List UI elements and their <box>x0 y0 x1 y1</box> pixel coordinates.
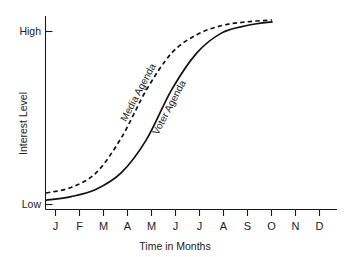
y-tick-label-high: High <box>19 25 41 37</box>
x-tick-label-feb: F <box>76 220 83 232</box>
x-axis-title: Time in Months <box>139 240 210 252</box>
chart-container: High Low Interest Level J F M A M J J A … <box>0 0 344 257</box>
x-tick-label-apr: A <box>124 220 132 232</box>
x-tick-label-may: M <box>147 220 156 232</box>
x-tick-label-nov: N <box>292 220 300 232</box>
chart-background <box>0 0 344 257</box>
x-tick-label-sep: S <box>244 220 251 232</box>
x-tick-label-mar: M <box>99 220 108 232</box>
x-tick-label-dec: D <box>316 220 324 232</box>
y-tick-label-low: Low <box>22 198 42 210</box>
y-axis-title: Interest Level <box>17 92 29 155</box>
x-tick-label-oct: O <box>267 220 276 232</box>
agenda-setting-line-chart: High Low Interest Level J F M A M J J A … <box>0 0 344 257</box>
x-tick-label-jun: J <box>173 220 179 232</box>
x-tick-label-jul: J <box>197 220 203 232</box>
x-tick-label-aug: A <box>220 220 228 232</box>
x-tick-label-jan: J <box>53 220 59 232</box>
